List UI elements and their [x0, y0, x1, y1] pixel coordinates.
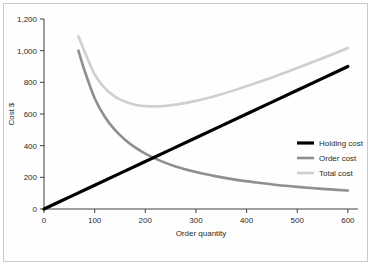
x-tick-label: 200: [139, 216, 153, 225]
x-tick-label: 400: [240, 216, 254, 225]
y-tick-label: 0: [33, 205, 38, 214]
chart-legend: Holding costOrder costTotal cost: [297, 139, 364, 178]
y-tick-label: 800: [24, 78, 38, 87]
x-axis-ticks: 0100200300400500600: [42, 209, 355, 225]
series-line-total-cost: [78, 36, 347, 106]
y-tick-label: 200: [24, 173, 38, 182]
legend-label-holding-cost: Holding cost: [319, 139, 364, 148]
x-axis-title: Order quantity: [176, 229, 227, 238]
x-tick-label: 300: [189, 216, 203, 225]
y-tick-label: 1,000: [17, 47, 38, 56]
x-tick-label: 600: [341, 216, 355, 225]
y-tick-label: 600: [24, 110, 38, 119]
y-axis-title: Cost $: [7, 102, 16, 126]
x-tick-label: 100: [88, 216, 102, 225]
data-series-group: [44, 36, 348, 209]
legend-label-order-cost: Order cost: [319, 154, 357, 163]
y-tick-label: 400: [24, 142, 38, 151]
chart-figure: 02004006008001,0001,200 0100200300400500…: [0, 0, 372, 266]
y-axis-ticks: 02004006008001,0001,200: [17, 15, 44, 214]
legend-label-total-cost: Total cost: [319, 169, 354, 178]
axes-group: [44, 19, 358, 209]
series-line-order-cost: [78, 51, 347, 191]
x-tick-label: 0: [42, 216, 47, 225]
x-tick-label: 500: [291, 216, 305, 225]
y-tick-label: 1,200: [17, 15, 38, 24]
eoq-cost-chart: 02004006008001,0001,200 0100200300400500…: [0, 0, 372, 266]
